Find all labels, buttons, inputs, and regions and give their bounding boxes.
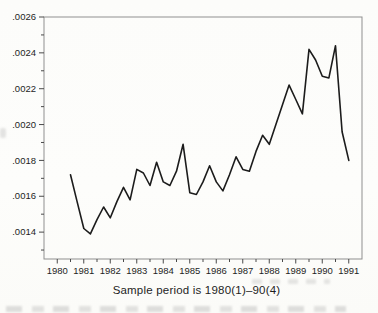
x-axis-tick-label: 1990: [312, 265, 333, 276]
x-axis-tick-label: 1982: [100, 265, 121, 276]
data-series-line: [71, 46, 349, 234]
y-axis-tick-label: .0016: [12, 190, 36, 201]
y-axis-tick-label: .0020: [12, 119, 36, 130]
x-axis-tick-label: 1988: [259, 265, 280, 276]
x-axis-tick-label: 1987: [232, 265, 253, 276]
x-axis-tick-label: 1980: [47, 265, 68, 276]
y-axis-tick-label: .0022: [12, 83, 36, 94]
scanned-page: .0026.0024.0022.0020.0018.0016.001419801…: [0, 0, 378, 313]
x-axis-tick-label: 1989: [285, 265, 306, 276]
x-axis-tick-label: 1983: [126, 265, 147, 276]
y-axis-tick-label: .0026: [12, 11, 36, 22]
x-axis-tick-label: 1985: [179, 265, 200, 276]
x-axis-tick-label: 1986: [206, 265, 227, 276]
x-axis-tick-label: 1991: [338, 265, 359, 276]
scan-artifact-bottom-text-bleed: [6, 306, 346, 312]
y-axis-tick-label: .0018: [12, 155, 36, 166]
x-axis-tick-label: 1984: [153, 265, 174, 276]
y-axis-tick-label: .0014: [12, 226, 36, 237]
line-chart: .0026.0024.0022.0020.0018.0016.001419801…: [0, 0, 378, 284]
y-axis-tick-label: .0024: [12, 47, 36, 58]
plot-frame: [44, 17, 362, 259]
x-axis-tick-label: 1981: [73, 265, 94, 276]
figure-caption: Sample period is 1980(1)–90(4): [0, 284, 378, 296]
